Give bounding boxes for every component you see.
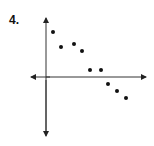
data-point (124, 96, 128, 100)
data-point (88, 68, 92, 72)
scatter-plot-figure: 4. (0, 0, 154, 146)
data-point (106, 82, 110, 86)
data-point (59, 45, 63, 49)
data-point (72, 42, 76, 46)
data-point (51, 30, 55, 34)
data-point (115, 89, 119, 93)
data-point (80, 49, 84, 53)
data-point (99, 68, 103, 72)
scatter-plot (0, 0, 154, 146)
data-points (51, 30, 128, 100)
